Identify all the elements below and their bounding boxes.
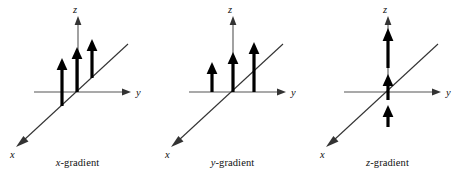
gradient-arrow-group — [57, 39, 98, 106]
gradient-arrow-1 — [383, 105, 394, 127]
y-axis-label: y — [445, 87, 451, 98]
axes-diagram-z: z y x — [310, 0, 464, 160]
caption-text: -gradient — [60, 157, 99, 168]
gradient-arrow-2 — [72, 47, 83, 92]
gradient-arrow-1 — [207, 62, 218, 92]
panel-caption-y: y-gradient — [155, 157, 310, 168]
y-axis-arrowhead — [122, 89, 131, 96]
gradient-arrow-3 — [87, 39, 98, 78]
y-axis-arrowhead — [432, 89, 441, 96]
axes-diagram-y: z y x — [155, 0, 310, 160]
z-axis-arrowhead — [230, 16, 237, 25]
panel-z-gradient: z y x z-gradient — [310, 0, 464, 185]
z-axis-label: z — [382, 4, 387, 15]
panel-x-gradient: z y x x-gradient — [0, 0, 155, 185]
panel-caption-z: z-gradient — [310, 157, 464, 168]
gradient-figure: z y x x-gradient — [0, 0, 464, 185]
caption-text: -gradient — [370, 157, 409, 168]
caption-text: -gradient — [215, 157, 254, 168]
y-axis-label: y — [135, 87, 141, 98]
z-axis-arrowhead — [385, 16, 392, 25]
z-axis-label: z — [227, 4, 232, 15]
z-axis-arrowhead — [75, 16, 82, 25]
gradient-arrow-1 — [57, 58, 68, 106]
gradient-arrow-group — [383, 28, 394, 127]
y-axis-label: y — [290, 87, 296, 98]
gradient-arrow-3 — [383, 28, 394, 68]
panel-caption-x: x-gradient — [0, 157, 155, 168]
z-axis-label: z — [72, 4, 77, 15]
panel-y-gradient: z y x y-gradient — [155, 0, 310, 185]
y-axis-arrowhead — [277, 89, 286, 96]
axes-diagram-x: z y x — [0, 0, 155, 160]
